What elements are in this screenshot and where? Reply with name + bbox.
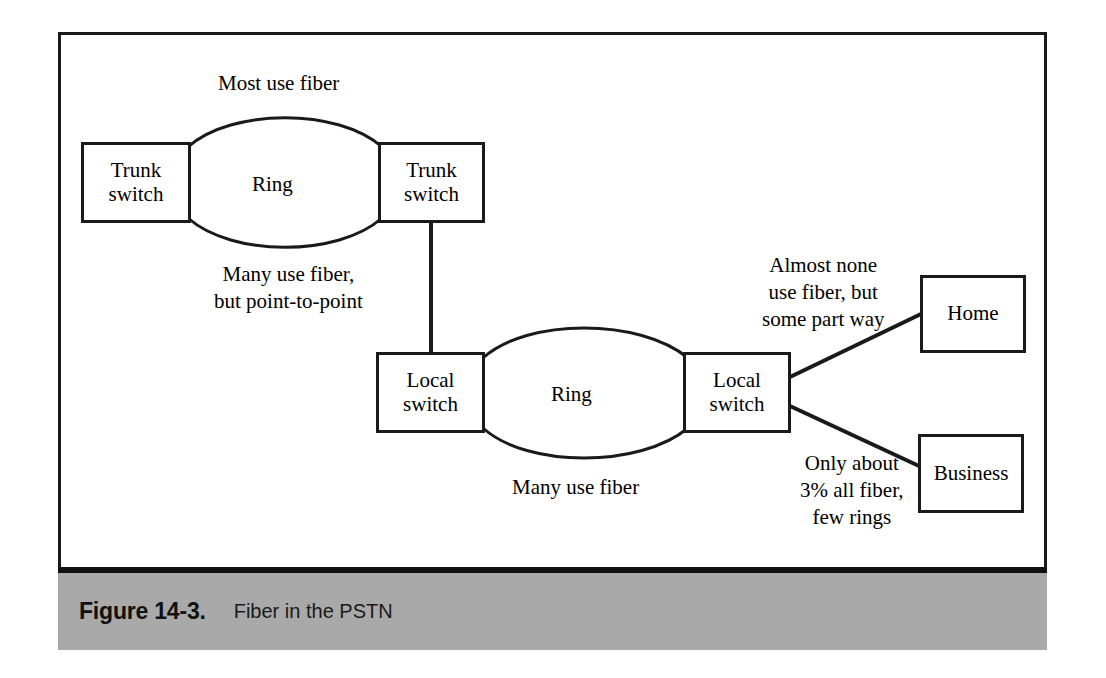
- annotation-almost-none-use-fiber: Almost none use fiber, but some part way: [762, 252, 884, 333]
- ring-label-upper: Ring: [252, 172, 293, 197]
- figure-caption-bar: Figure 14-3. Fiber in the PSTN: [58, 567, 1047, 650]
- node-trunk-switch-right[interactable]: Trunk switch: [378, 142, 485, 223]
- figure-frame: [58, 32, 1047, 650]
- node-label: Trunk switch: [404, 159, 459, 206]
- figure-caption-number: Figure 14-3.: [79, 598, 206, 625]
- annotation-many-use-fiber: Many use fiber: [512, 474, 639, 501]
- annotation-most-use-fiber: Most use fiber: [218, 70, 339, 97]
- annotation-only-about-3-percent: Only about 3% all fiber, few rings: [800, 450, 904, 531]
- figure-caption-title: Fiber in the PSTN: [234, 600, 393, 623]
- node-label: Home: [947, 302, 998, 326]
- node-trunk-switch-left[interactable]: Trunk switch: [81, 142, 191, 223]
- node-business[interactable]: Business: [918, 434, 1024, 513]
- node-label: Business: [934, 462, 1009, 486]
- node-local-switch-left[interactable]: Local switch: [376, 352, 485, 433]
- node-home[interactable]: Home: [920, 275, 1026, 353]
- annotation-many-use-fiber-point-to-point: Many use fiber, but point-to-point: [214, 261, 363, 315]
- node-label: Trunk switch: [109, 159, 164, 206]
- node-label: Local switch: [710, 369, 765, 416]
- node-label: Local switch: [403, 369, 458, 416]
- ring-label-lower: Ring: [551, 382, 592, 407]
- node-local-switch-right[interactable]: Local switch: [683, 352, 791, 433]
- figure-page: Trunk switch Trunk switch Local switch L…: [0, 0, 1106, 678]
